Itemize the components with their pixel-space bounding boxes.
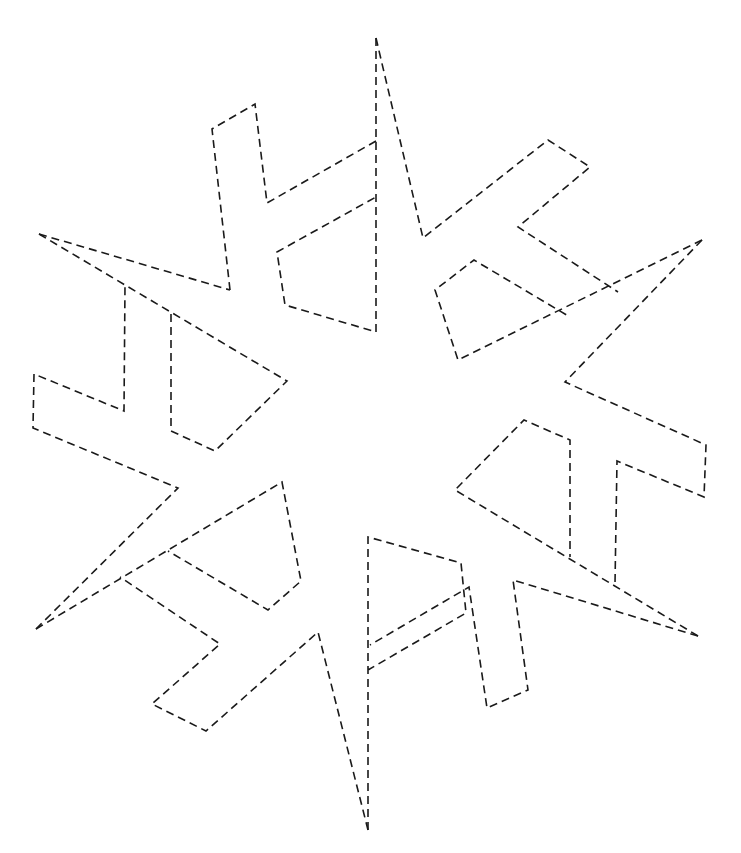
left-lower-arm [36, 482, 301, 629]
snowflake-outline [33, 38, 706, 830]
left-upper-arm [39, 234, 287, 451]
right-upper-arm [435, 240, 702, 360]
bottom-arm-outer [120, 577, 368, 830]
left-upper-arm-outer [39, 234, 230, 290]
top-arm-right-edge [376, 38, 618, 292]
bottom-arm [368, 537, 466, 830]
top-arm-left-spoke [277, 38, 376, 332]
top-arm-left-branch [212, 104, 376, 290]
right-upper-arm-outer [565, 240, 706, 584]
right-lower-arm-outer [370, 580, 698, 708]
snowflake-cutout-diagram [0, 0, 741, 853]
left-lower-arm-outer [33, 285, 178, 629]
right-lower-arm [455, 420, 698, 636]
